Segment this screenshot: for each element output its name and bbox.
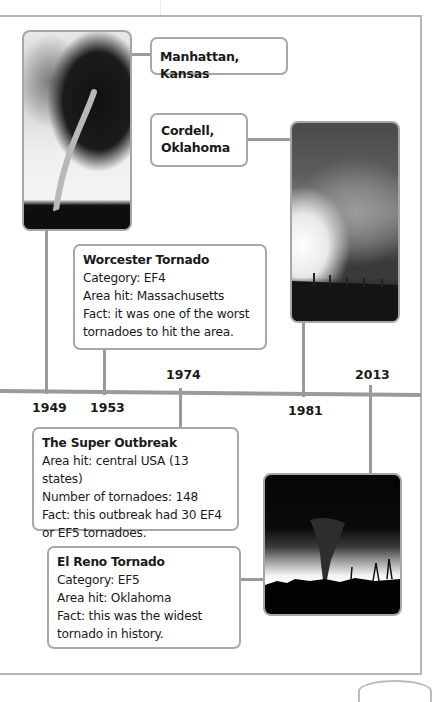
event-title: Worcester Tornado [83, 251, 257, 269]
event-card-el-reno: El Reno Tornado Category: EF5 Area hit: … [47, 546, 241, 649]
event-fact: Fact: this outbreak had 30 EF4 [42, 506, 229, 524]
year-label-1949: 1949 [32, 400, 67, 415]
event-fact-cont: tornado in history. [57, 625, 231, 643]
year-label-2013: 2013 [355, 367, 390, 382]
location-label-manhattan: Manhattan, Kansas [150, 37, 288, 75]
event-title: The Super Outbreak [42, 434, 229, 452]
tornado-photo-wedge [290, 121, 400, 323]
event-area: Area hit: Massachusetts [83, 287, 257, 305]
event-card-worcester: Worcester Tornado Category: EF4 Area hit… [73, 244, 267, 350]
connector-1949 [45, 230, 48, 394]
connector-2013 [369, 385, 372, 474]
frame-border-top [0, 15, 422, 17]
location-text-line1: Cordell, [161, 122, 237, 139]
event-fact: Fact: it was one of the worst [83, 305, 257, 323]
location-text: Manhattan, Kansas [160, 49, 239, 81]
tornado-photo-silhouette [263, 473, 402, 616]
fence-silhouette-icon [292, 123, 398, 321]
tornado-photo-rope [22, 30, 132, 231]
event-category: Category: EF4 [83, 269, 257, 287]
connector-1981 [302, 322, 305, 397]
event-area: Area hit: central USA (13 states) [42, 452, 229, 488]
frame-border-right [420, 15, 422, 675]
tornado-funnel-icon [265, 475, 400, 614]
event-area: Area hit: Oklahoma [57, 589, 231, 607]
link-manhattan [131, 53, 151, 56]
location-label-cordell: Cordell, Oklahoma [150, 113, 248, 167]
event-count: Number of tornadoes: 148 [42, 488, 229, 506]
event-fact-cont: tornadoes to hit the area. [83, 323, 257, 341]
year-label-1953: 1953 [90, 400, 125, 415]
link-elreno [240, 578, 264, 581]
timeline-axis [0, 389, 421, 397]
event-card-super-outbreak: The Super Outbreak Area hit: central USA… [32, 427, 239, 531]
tornado-funnel-icon [24, 32, 130, 229]
background-line [160, 0, 161, 15]
decorative-swoosh [358, 680, 432, 702]
year-label-1981: 1981 [288, 403, 323, 418]
event-fact: Fact: this was the widest [57, 607, 231, 625]
link-cordell [247, 138, 291, 141]
connector-1974 [179, 388, 182, 428]
event-category: Category: EF5 [57, 571, 231, 589]
frame-border-bottom [0, 673, 422, 675]
connector-1953 [103, 349, 106, 395]
location-text-line2: Oklahoma [161, 139, 237, 156]
event-fact-cont: or EF5 tornadoes. [42, 524, 229, 542]
year-label-1974: 1974 [166, 367, 201, 382]
event-title: El Reno Tornado [57, 553, 231, 571]
